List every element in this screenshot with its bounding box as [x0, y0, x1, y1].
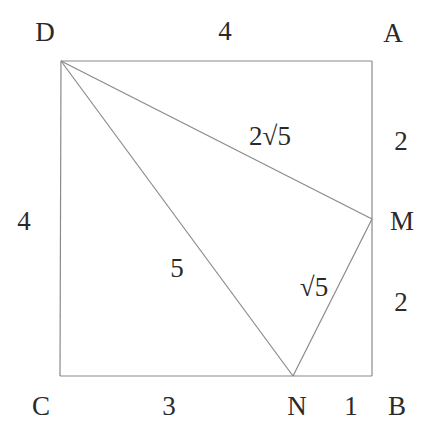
- length-label-DM: 2√5: [249, 123, 291, 150]
- vertex-label-B: B: [388, 393, 406, 420]
- length-label-AM: 2: [394, 128, 408, 155]
- vertex-label-D: D: [35, 19, 55, 46]
- vertex-label-N: N: [287, 393, 307, 420]
- vertex-label-A: A: [383, 20, 403, 47]
- length-label-MB: 2: [394, 289, 408, 316]
- length-label-CN: 3: [162, 393, 176, 420]
- vertex-label-C: C: [32, 393, 50, 420]
- vertex-label-M: M: [390, 208, 414, 235]
- length-label-NB: 1: [344, 393, 358, 420]
- segment-DM: [61, 61, 372, 219]
- length-label-DA: 4: [218, 18, 232, 45]
- geometry-figure: [0, 0, 433, 430]
- length-label-MN: √5: [300, 274, 328, 301]
- segment-DN: [61, 61, 293, 376]
- length-label-DC: 4: [17, 208, 31, 235]
- segment-CD: [60, 61, 61, 376]
- length-label-DN: 5: [170, 255, 184, 282]
